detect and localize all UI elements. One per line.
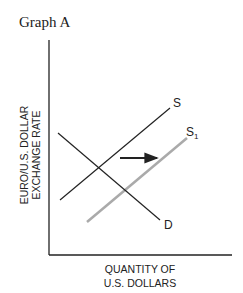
demand-curve-d [58, 133, 160, 220]
label-s1: S1 [186, 125, 199, 141]
label-d: D [164, 218, 173, 232]
supply-curve-s [60, 108, 170, 200]
supply-curve-s1 [87, 138, 187, 222]
label-s: S [173, 96, 181, 110]
graph-canvas: S S1 D [0, 0, 243, 293]
